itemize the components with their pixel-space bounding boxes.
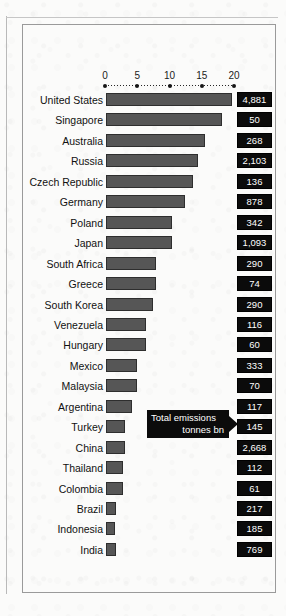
bar-row-country-label: China xyxy=(76,441,103,455)
total-emissions-value-box: 290 xyxy=(237,297,272,312)
bar-row: Poland342 xyxy=(0,215,286,231)
total-emissions-value-box: 333 xyxy=(237,358,272,373)
total-emissions-value-box: 112 xyxy=(237,460,272,475)
bar-row: Mexico333 xyxy=(0,358,286,374)
total-emissions-value-box: 136 xyxy=(237,174,272,189)
bar-row-country-label: Australia xyxy=(62,134,103,148)
bar xyxy=(106,359,137,372)
total-emissions-value-box: 74 xyxy=(237,276,272,291)
total-emissions-value-box: 290 xyxy=(237,256,272,271)
bar-row-country-label: Colombia xyxy=(59,482,103,496)
bar-row-country-label: Indonesia xyxy=(57,522,103,536)
bar-row-country-label: Russia xyxy=(71,154,103,168)
bar-row: Thailand112 xyxy=(0,460,286,476)
bar-row-country-label: Venezuela xyxy=(54,318,103,332)
bar-row: Australia268 xyxy=(0,133,286,149)
total-emissions-value-box: 268 xyxy=(237,133,272,148)
bar-row-country-label: Germany xyxy=(60,195,103,209)
total-emissions-value-box: 217 xyxy=(237,501,272,516)
bar-row: Venezuela116 xyxy=(0,317,286,333)
bar-row-country-label: United States xyxy=(40,93,103,107)
total-emissions-value-box: 61 xyxy=(237,481,272,496)
total-emissions-value-box: 145 xyxy=(237,419,272,434)
bar xyxy=(106,543,116,556)
bar-row: Colombia61 xyxy=(0,481,286,497)
total-emissions-value-box: 60 xyxy=(237,337,272,352)
top-horizontal-rule xyxy=(6,17,278,18)
bar-row: South Korea290 xyxy=(0,297,286,313)
bar-row-country-label: Thailand xyxy=(63,461,103,475)
bar-row: Singapore50 xyxy=(0,112,286,128)
bar xyxy=(106,113,222,126)
bar xyxy=(106,175,193,188)
chart-page: 05101520 United States4,881Singapore50Au… xyxy=(0,0,286,616)
bar-row-country-label: South Africa xyxy=(46,257,103,271)
bar xyxy=(106,482,123,495)
total-emissions-value-box: 70 xyxy=(237,378,272,393)
bar xyxy=(106,400,132,413)
bar xyxy=(106,338,146,351)
total-emissions-value-box: 2,103 xyxy=(237,153,272,168)
bar-row-country-label: Brazil xyxy=(77,502,103,516)
total-emissions-value-box: 4,881 xyxy=(237,92,272,107)
bar xyxy=(106,318,146,331)
bar-row: Indonesia185 xyxy=(0,521,286,537)
bar-row: Malaysia70 xyxy=(0,378,286,394)
bar-row-country-label: Hungary xyxy=(63,338,103,352)
bar xyxy=(106,502,116,515)
bar-row-country-label: Malaysia xyxy=(62,379,103,393)
bar-row: South Africa290 xyxy=(0,256,286,272)
bar xyxy=(106,298,153,311)
bar-row: Argentina117 xyxy=(0,399,286,415)
bar-row-country-label: Mexico xyxy=(70,359,103,373)
bar xyxy=(106,257,156,270)
bar-row: Turkey145 xyxy=(0,419,286,435)
bar xyxy=(106,236,172,249)
annotation-callout: Total emissions tonnes bn xyxy=(147,410,229,438)
total-emissions-value-box: 50 xyxy=(237,112,272,127)
bar-row-country-label: India xyxy=(80,543,103,557)
bar-row: United States4,881 xyxy=(0,92,286,108)
bar-row: Brazil217 xyxy=(0,501,286,517)
bar-row-country-label: Argentina xyxy=(58,400,103,414)
total-emissions-value-box: 185 xyxy=(237,521,272,536)
total-emissions-value-box: 116 xyxy=(237,317,272,332)
bar xyxy=(106,441,125,454)
annotation-line-1: Total emissions xyxy=(151,412,224,424)
bar-row: India769 xyxy=(0,542,286,558)
bar-row: Czech Republic136 xyxy=(0,174,286,190)
bar-row: China2,668 xyxy=(0,440,286,456)
annotation-arrow-icon xyxy=(229,416,238,432)
bar xyxy=(106,134,205,147)
total-emissions-value-box: 769 xyxy=(237,542,272,557)
bar xyxy=(106,461,123,474)
bar-row: Greece74 xyxy=(0,276,286,292)
bar xyxy=(106,216,172,229)
total-emissions-value-box: 878 xyxy=(237,194,272,209)
bar xyxy=(106,277,156,290)
bar xyxy=(106,93,232,106)
bar xyxy=(106,522,115,535)
bar-row: Japan1,093 xyxy=(0,235,286,251)
bar xyxy=(106,195,185,208)
annotation-line-2: tonnes bn xyxy=(151,424,224,436)
bar xyxy=(106,379,137,392)
bar xyxy=(106,154,198,167)
total-emissions-value-box: 2,668 xyxy=(237,440,272,455)
bar-row: Hungary60 xyxy=(0,337,286,353)
bar-row: Russia2,103 xyxy=(0,153,286,169)
total-emissions-value-box: 117 xyxy=(237,399,272,414)
bar-row-country-label: Turkey xyxy=(71,420,103,434)
bar-row-country-label: Czech Republic xyxy=(29,175,103,189)
bar-row-country-label: Japan xyxy=(74,236,103,250)
bar-row: Germany878 xyxy=(0,194,286,210)
bar-row-country-label: South Korea xyxy=(45,298,103,312)
bar-row-country-label: Singapore xyxy=(55,113,103,127)
bar-row-country-label: Poland xyxy=(70,216,103,230)
total-emissions-value-box: 342 xyxy=(237,215,272,230)
bar-row-country-label: Greece xyxy=(69,277,103,291)
bar xyxy=(106,420,125,433)
total-emissions-value-box: 1,093 xyxy=(237,235,272,250)
